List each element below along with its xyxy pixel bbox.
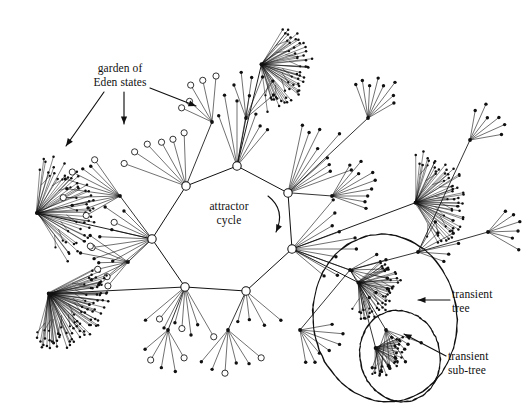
label-transient-tree: transient tree	[452, 288, 522, 315]
label-transient-sub-tree: transient sub-tree	[448, 350, 524, 377]
figure-canvas: garden of Eden states attractor cycle tr…	[0, 0, 532, 416]
label-attractor-cycle: attractor cycle	[196, 200, 262, 227]
label-garden-of-eden-states: garden of Eden states	[72, 62, 168, 89]
